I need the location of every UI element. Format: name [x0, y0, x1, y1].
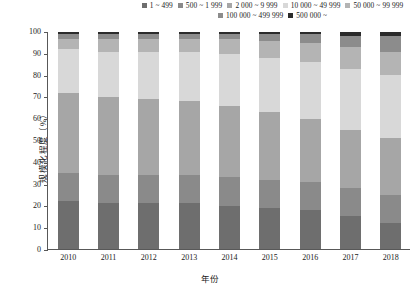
- bar-segment[interactable]: [219, 206, 240, 249]
- bar-group[interactable]: 2014: [219, 32, 240, 249]
- y-axis-tick-label: 100: [29, 28, 41, 36]
- bar-segment[interactable]: [259, 41, 280, 58]
- legend-swatch-icon: [288, 13, 293, 18]
- bar-segment[interactable]: [179, 39, 200, 52]
- legend-item[interactable]: 100 000 ~ 499 999: [218, 11, 283, 20]
- bar-segment[interactable]: [259, 208, 280, 249]
- legend-swatch-icon: [218, 13, 223, 18]
- bar-segment[interactable]: [219, 39, 240, 54]
- bar-segment[interactable]: [300, 34, 321, 43]
- x-axis-tick-label: 2010: [60, 253, 76, 262]
- bar-segment[interactable]: [300, 210, 321, 249]
- legend-item[interactable]: 50 000 ~ 99 999: [345, 1, 403, 10]
- y-axis-tick-label: 30: [33, 181, 41, 189]
- bar-segment[interactable]: [58, 201, 79, 249]
- bar-segment[interactable]: [380, 52, 401, 76]
- bar-segment[interactable]: [300, 119, 321, 182]
- bar-segment[interactable]: [98, 175, 119, 203]
- bar-segment[interactable]: [340, 216, 361, 249]
- bar-group[interactable]: 2015: [259, 32, 280, 249]
- bar-segment[interactable]: [340, 188, 361, 216]
- bar-segment[interactable]: [98, 97, 119, 175]
- bar-segment[interactable]: [138, 203, 159, 249]
- legend-label: 500 ~ 1 999: [186, 1, 223, 10]
- bar-segment[interactable]: [58, 93, 79, 173]
- bar-segment[interactable]: [138, 175, 159, 203]
- legend-label: 50 000 ~ 99 999: [353, 1, 403, 10]
- bar-segment[interactable]: [380, 223, 401, 249]
- bar-segment[interactable]: [380, 138, 401, 194]
- bar-segment[interactable]: [179, 203, 200, 249]
- stacked-bar-chart: 1 ~ 499500 ~ 1 9992 000 ~ 9 99910 000 ~ …: [0, 0, 420, 292]
- x-axis-tick-label: 2011: [101, 253, 117, 262]
- bar-segment[interactable]: [340, 36, 361, 47]
- x-axis-tick-label: 2016: [302, 253, 318, 262]
- bar-segment[interactable]: [179, 101, 200, 175]
- bar-segment[interactable]: [179, 175, 200, 203]
- bar-segment[interactable]: [300, 182, 321, 210]
- x-axis-tick-label: 2015: [262, 253, 278, 262]
- bar-segment[interactable]: [300, 62, 321, 118]
- y-axis-tick-label: 70: [33, 93, 41, 101]
- bar-segment[interactable]: [138, 99, 159, 175]
- bar-segment[interactable]: [138, 39, 159, 52]
- bar-segment[interactable]: [340, 47, 361, 69]
- bar-segment[interactable]: [98, 39, 119, 52]
- y-axis-tick-label: 0: [37, 246, 41, 254]
- legend-label: 100 000 ~ 499 999: [226, 11, 283, 20]
- y-axis-tick-label: 80: [33, 72, 41, 80]
- bar-group[interactable]: 2012: [138, 32, 159, 249]
- bar-stack: [179, 32, 200, 249]
- legend-swatch-icon: [227, 3, 232, 8]
- bar-group[interactable]: 2011: [98, 32, 119, 249]
- bar-segment[interactable]: [219, 54, 240, 106]
- bar-segment[interactable]: [98, 203, 119, 249]
- y-axis-tick: [44, 250, 48, 251]
- bar-stack: [340, 32, 361, 249]
- bar-segment[interactable]: [340, 130, 361, 189]
- legend-item[interactable]: 500 ~ 1 999: [178, 1, 223, 10]
- bar-segment[interactable]: [380, 195, 401, 223]
- legend-swatch-icon: [283, 3, 288, 8]
- legend-swatch-icon: [345, 3, 350, 8]
- bar-stack: [138, 32, 159, 249]
- bar-segment[interactable]: [58, 49, 79, 92]
- bar-segment[interactable]: [219, 177, 240, 205]
- bar-segment[interactable]: [300, 43, 321, 63]
- legend-item[interactable]: 1 ~ 499: [142, 1, 173, 10]
- plot-area: 0102030405060708090100 20102011201220132…: [47, 32, 410, 250]
- bar-segment[interactable]: [179, 52, 200, 102]
- legend-item[interactable]: 10 000 ~ 49 999: [283, 1, 341, 10]
- legend-label: 1 ~ 499: [150, 1, 173, 10]
- bar-group[interactable]: 2018: [380, 32, 401, 249]
- bar-segment[interactable]: [98, 52, 119, 98]
- legend-item[interactable]: 2 000 ~ 9 999: [227, 1, 277, 10]
- y-axis-tick-label: 90: [33, 50, 41, 58]
- bar-segment[interactable]: [138, 52, 159, 100]
- y-axis-tick-label: 40: [33, 159, 41, 167]
- legend-label: 2 000 ~ 9 999: [235, 1, 277, 10]
- bar-group[interactable]: 2010: [58, 32, 79, 249]
- bar-segment[interactable]: [259, 58, 280, 112]
- y-axis-tick-label: 60: [33, 115, 41, 123]
- x-axis-tick-label: 2018: [383, 253, 399, 262]
- bar-segment[interactable]: [259, 112, 280, 179]
- bar-group[interactable]: 2017: [340, 32, 361, 249]
- y-axis-tick-label: 50: [33, 137, 41, 145]
- x-axis-tick-label: 2012: [141, 253, 157, 262]
- bar-stack: [380, 32, 401, 249]
- bar-segment[interactable]: [340, 69, 361, 130]
- bar-group[interactable]: 2016: [300, 32, 321, 249]
- legend-item[interactable]: 500 000 ~: [288, 11, 327, 20]
- bar-segment[interactable]: [58, 39, 79, 50]
- bar-segment[interactable]: [58, 173, 79, 201]
- bar-segment[interactable]: [380, 75, 401, 138]
- bar-segment[interactable]: [259, 180, 280, 208]
- legend-swatch-icon: [178, 3, 183, 8]
- x-axis-title: 年份: [0, 272, 420, 284]
- bar-group[interactable]: 2013: [179, 32, 200, 249]
- bar-stack: [98, 32, 119, 249]
- bar-segment[interactable]: [380, 36, 401, 51]
- bar-segment[interactable]: [219, 106, 240, 178]
- legend-label: 500 000 ~: [296, 11, 327, 20]
